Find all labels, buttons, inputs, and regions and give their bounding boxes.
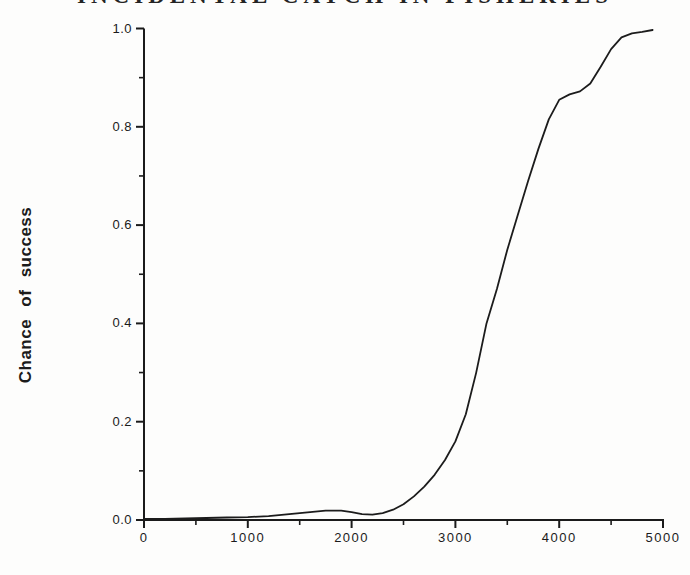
x-tick-label: 5000: [635, 531, 690, 545]
plot-canvas: [0, 0, 690, 575]
y-tick-label: 0.6: [100, 218, 132, 232]
y-tick-label: 1.0: [100, 22, 132, 36]
scanned-chart-page: INCIDENTAL CATCH IN FISHERIES Chance of …: [0, 0, 690, 575]
x-tick-label: 1000: [220, 531, 276, 545]
y-tick-label: 0.2: [100, 415, 132, 429]
y-tick-label: 0.0: [100, 513, 132, 527]
x-tick-label: 3000: [427, 531, 483, 545]
y-tick-label: 0.4: [100, 316, 132, 330]
x-tick-label: 0: [116, 531, 172, 545]
x-tick-label: 4000: [531, 531, 587, 545]
chance-of-success-curve: [144, 30, 653, 519]
x-tick-label: 2000: [324, 531, 380, 545]
y-tick-label: 0.8: [100, 120, 132, 134]
